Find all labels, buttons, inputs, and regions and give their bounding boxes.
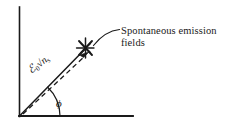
annotation-line-2: fields: [121, 37, 145, 49]
annotation-leader-line: [94, 30, 120, 46]
angle-phi-label: ϕ: [56, 97, 62, 109]
phasor-vector-diagram: ℰ0√ns ϕ Spontaneous emission fields: [0, 0, 230, 128]
main-vector-line: [20, 48, 87, 116]
annotation-line-1: Spontaneous emission: [121, 25, 217, 37]
spontaneous-emission-star: [77, 38, 95, 58]
